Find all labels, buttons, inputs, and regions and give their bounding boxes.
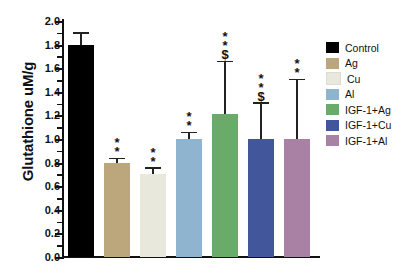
- legend-label: IGF-1+Cu: [345, 119, 391, 131]
- y-tick-mark: [57, 151, 63, 153]
- bar: [212, 114, 238, 257]
- legend-swatch: [326, 135, 339, 146]
- y-tick-label: 0.4: [45, 204, 60, 216]
- y-tick-label: 1.0: [45, 133, 60, 145]
- y-tick-mark: [57, 222, 63, 224]
- y-tick-mark: [57, 245, 63, 247]
- error-bar: [152, 169, 154, 175]
- bar: [248, 139, 274, 257]
- y-tick-mark: [57, 80, 63, 82]
- y-tick-label: 0.8: [45, 157, 60, 169]
- bar: [176, 139, 202, 257]
- asterisk-mark: *: [282, 68, 312, 77]
- significance-annotation: **$: [210, 32, 240, 59]
- legend-item: IGF-1+Al: [326, 133, 404, 149]
- legend-label: Al: [345, 88, 354, 100]
- legend-item: Ag: [326, 56, 404, 72]
- significance-annotation: **: [102, 138, 132, 156]
- y-axis-title: Glutathione uM/g: [19, 37, 36, 207]
- legend-swatch: [326, 42, 339, 53]
- y-tick-mark: [57, 104, 63, 106]
- bar: [68, 45, 94, 257]
- plot-area: 2.01.81.61.41.21.00.80.60.40.20.0 ******…: [63, 21, 315, 257]
- dollar-mark: $: [210, 50, 240, 59]
- asterisk-mark: *: [102, 147, 132, 156]
- y-tick-mark: [57, 127, 63, 129]
- legend-label: IGF-1+Ag: [345, 104, 391, 116]
- legend-label: Control: [345, 42, 379, 54]
- y-tick-label: 2.0: [45, 15, 60, 27]
- legend-swatch: [326, 89, 339, 100]
- error-bar: [224, 62, 226, 114]
- bar: [140, 174, 166, 257]
- legend-item: IGF-1+Cu: [326, 118, 404, 134]
- legend-item: IGF-1+Ag: [326, 102, 404, 118]
- legend-label: Ag: [345, 57, 358, 69]
- asterisk-mark: *: [138, 157, 168, 166]
- legend-item: Al: [326, 87, 404, 103]
- y-tick-label: 0.0: [45, 251, 60, 263]
- y-tick-mark: [57, 198, 63, 200]
- legend-item: Cu: [326, 71, 404, 87]
- y-tick-label: 1.8: [45, 39, 60, 51]
- dollar-mark: $: [246, 92, 276, 101]
- y-tick-mark: [57, 33, 63, 35]
- legend-swatch: [326, 72, 341, 85]
- significance-annotation: **: [174, 112, 204, 130]
- bar-chart-figure: Glutathione uM/g 2.01.81.61.41.21.00.80.…: [0, 0, 404, 273]
- error-bar: [260, 104, 262, 139]
- error-bar: [116, 159, 118, 163]
- bar: [104, 163, 130, 257]
- error-bar: [296, 80, 298, 139]
- significance-annotation: **: [138, 148, 168, 166]
- legend-swatch: [326, 120, 339, 131]
- y-tick-mark: [57, 56, 63, 58]
- y-tick-label: 1.2: [45, 109, 60, 121]
- significance-annotation: **: [282, 59, 312, 77]
- y-tick-mark: [57, 174, 63, 176]
- y-tick-label: 1.4: [45, 86, 60, 98]
- chart-legend: ControlAgCuAlIGF-1+AgIGF-1+CuIGF-1+Al: [326, 40, 404, 149]
- error-bar-cap: [73, 32, 89, 34]
- bar: [284, 139, 310, 257]
- significance-annotation: **$: [246, 74, 276, 101]
- legend-item: Control: [326, 40, 404, 56]
- asterisk-mark: *: [174, 121, 204, 130]
- legend-swatch: [326, 58, 339, 69]
- y-tick-label: 0.6: [45, 180, 60, 192]
- legend-label: Cu: [347, 73, 360, 85]
- legend-swatch: [326, 104, 339, 115]
- y-tick-label: 1.6: [45, 62, 60, 74]
- y-tick-label: 0.2: [45, 227, 60, 239]
- error-bar: [80, 34, 82, 45]
- legend-label: IGF-1+Al: [345, 135, 387, 147]
- error-bar: [188, 133, 190, 139]
